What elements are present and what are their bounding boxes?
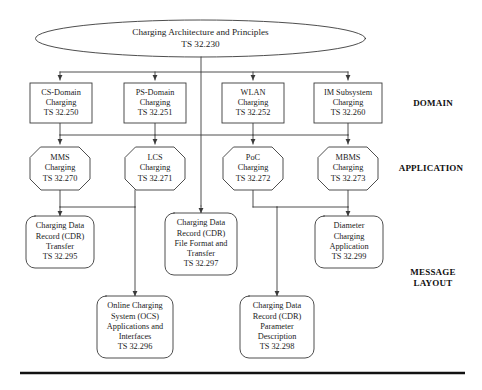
cdr-file-format-transfer-shape [165,213,237,275]
diameter-charging-application-shape [315,216,383,268]
tier-label-message-line-2: LAYOUT [390,278,476,289]
tier-label-message-layout: MESSAGE LAYOUT [390,267,476,289]
mbms-charging-shape [318,147,378,190]
lcs-charging-shape [125,147,185,190]
diagram-canvas: Charging Architecture and Principles TS … [0,0,482,390]
cdr-transfer-shape [26,216,94,268]
im-subsystem-charging-shape [314,83,382,123]
diagram-shapes-layer [0,0,482,390]
poc-charging-shape [223,147,283,190]
ps-domain-charging-shape [124,83,186,123]
ocs-applications-interfaces-shape [97,296,173,358]
cs-domain-charging-shape [30,83,92,123]
tier-label-message-line-1: MESSAGE [390,267,476,278]
root-node-shape [36,20,366,57]
mms-charging-shape [30,147,90,190]
cdr-parameter-description-shape [240,296,314,358]
tier-label-domain: DOMAIN [386,98,480,109]
tier-label-application: APPLICATION [380,163,482,174]
wlan-charging-shape [222,83,284,123]
